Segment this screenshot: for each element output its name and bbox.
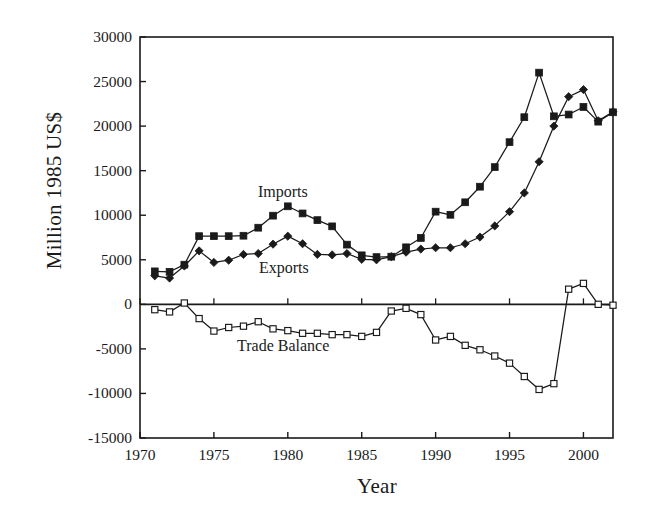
y-tick-label: 5000 xyxy=(42,251,132,269)
data-point-marker xyxy=(579,85,587,93)
series-line xyxy=(155,283,613,389)
data-point-marker xyxy=(550,122,558,130)
data-point-marker xyxy=(225,256,233,264)
series-label-trade-balance: Trade Balance xyxy=(237,337,329,355)
data-point-marker xyxy=(254,249,262,257)
data-point-marker xyxy=(506,139,513,146)
x-tick-label: 1975 xyxy=(179,446,249,464)
y-tick-label: 20000 xyxy=(42,117,132,135)
data-point-marker xyxy=(270,326,276,332)
data-point-marker xyxy=(536,69,543,76)
data-point-marker xyxy=(239,250,247,258)
series-trade-balance xyxy=(152,280,616,392)
y-tick-label: 15000 xyxy=(42,162,132,180)
data-point-marker xyxy=(284,203,291,210)
y-tick-label: 30000 xyxy=(42,28,132,46)
x-tick-label: 1995 xyxy=(475,446,545,464)
data-point-marker xyxy=(373,329,379,335)
data-point-marker xyxy=(491,164,498,171)
data-point-marker xyxy=(535,158,543,166)
data-point-marker xyxy=(550,113,557,120)
x-tick-label: 1985 xyxy=(327,446,397,464)
data-point-marker xyxy=(284,232,292,240)
data-point-marker xyxy=(447,211,454,218)
series-label-imports: Imports xyxy=(258,183,308,201)
series-line xyxy=(155,90,613,278)
data-point-marker xyxy=(506,360,512,366)
data-point-marker xyxy=(329,332,335,338)
data-point-marker xyxy=(462,199,469,206)
data-point-marker xyxy=(196,233,203,240)
data-point-marker xyxy=(344,332,350,338)
data-point-marker xyxy=(477,347,483,353)
series-exports xyxy=(151,85,617,282)
data-point-marker xyxy=(166,309,172,315)
data-point-marker xyxy=(270,212,277,219)
data-point-marker xyxy=(492,353,498,359)
data-point-marker xyxy=(432,208,439,215)
data-point-marker xyxy=(477,183,484,190)
data-point-marker xyxy=(417,245,425,253)
data-point-marker xyxy=(566,286,572,292)
data-point-marker xyxy=(211,233,218,240)
data-point-marker xyxy=(447,333,453,339)
data-point-marker xyxy=(565,111,572,118)
y-tick-label: -10000 xyxy=(42,384,132,402)
y-tick-label: -5000 xyxy=(42,340,132,358)
data-point-marker xyxy=(240,323,246,329)
data-point-marker xyxy=(298,240,306,248)
series-imports xyxy=(151,69,616,275)
data-point-marker xyxy=(328,251,336,259)
data-point-marker xyxy=(255,319,261,325)
data-point-marker xyxy=(565,93,573,101)
data-point-marker xyxy=(152,307,158,313)
data-point-marker xyxy=(433,337,439,343)
chart-figure: Million 1985 US$ Year 300002500020000150… xyxy=(0,0,648,519)
x-tick-label: 1990 xyxy=(401,446,471,464)
data-point-marker xyxy=(225,233,232,240)
data-point-marker xyxy=(329,223,336,230)
x-tick-label: 2000 xyxy=(548,446,618,464)
y-tick-label: -15000 xyxy=(42,429,132,447)
data-point-marker xyxy=(344,241,351,248)
data-point-marker xyxy=(211,328,217,334)
data-point-marker xyxy=(299,210,306,217)
x-axis-label: Year xyxy=(140,474,614,499)
data-point-marker xyxy=(181,300,187,306)
data-point-marker xyxy=(446,244,454,252)
data-point-marker xyxy=(521,114,528,121)
x-tick-label: 1980 xyxy=(253,446,323,464)
data-point-marker xyxy=(536,386,542,392)
x-tick-label: 1970 xyxy=(105,446,175,464)
data-point-marker xyxy=(580,280,586,286)
data-point-marker xyxy=(461,240,469,248)
data-point-marker xyxy=(418,311,424,317)
data-point-marker xyxy=(255,224,262,231)
data-point-marker xyxy=(226,324,232,330)
data-point-marker xyxy=(388,308,394,314)
data-point-marker xyxy=(313,250,321,258)
data-point-marker xyxy=(359,333,365,339)
data-point-marker xyxy=(314,217,321,224)
data-point-marker xyxy=(269,240,277,248)
data-point-marker xyxy=(240,232,247,239)
data-point-marker xyxy=(432,244,440,252)
series-label-exports: Exports xyxy=(259,259,309,277)
data-point-marker xyxy=(595,301,601,307)
data-point-marker xyxy=(551,381,557,387)
data-point-marker xyxy=(285,328,291,334)
data-point-marker xyxy=(610,302,616,308)
y-tick-label: 25000 xyxy=(42,73,132,91)
data-point-marker xyxy=(299,330,305,336)
data-point-marker xyxy=(462,342,468,348)
data-point-marker xyxy=(417,235,424,242)
data-point-marker xyxy=(343,249,351,257)
y-tick-label: 10000 xyxy=(42,206,132,224)
data-point-marker xyxy=(196,315,202,321)
data-point-marker xyxy=(314,330,320,336)
data-point-marker xyxy=(403,305,409,311)
y-tick-label: 0 xyxy=(42,295,132,313)
data-point-marker xyxy=(580,104,587,111)
data-point-marker xyxy=(521,373,527,379)
series-line xyxy=(155,73,613,272)
